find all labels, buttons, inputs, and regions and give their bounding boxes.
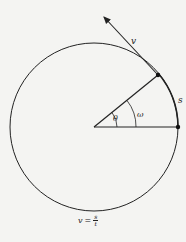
radius-angled <box>94 75 158 127</box>
point-right <box>176 125 180 129</box>
label-arc-length: s <box>178 96 183 105</box>
diagram-graphics <box>0 0 186 242</box>
formula-equals: = <box>85 216 92 225</box>
formula-lhs: v <box>78 216 83 225</box>
arc-s <box>158 73 178 127</box>
velocity-formula: v = s t <box>78 214 98 227</box>
formula-fraction: s t <box>93 214 98 227</box>
velocity-arrow <box>104 17 158 75</box>
label-angle-theta: θ <box>113 115 118 123</box>
label-velocity: v <box>131 37 136 46</box>
point-upper <box>156 73 160 77</box>
angle-arc-omega <box>127 101 136 128</box>
formula-denominator: t <box>95 221 97 227</box>
circular-motion-diagram: v s θ ω v = s t <box>0 0 186 242</box>
label-angular-velocity: ω <box>137 111 144 119</box>
